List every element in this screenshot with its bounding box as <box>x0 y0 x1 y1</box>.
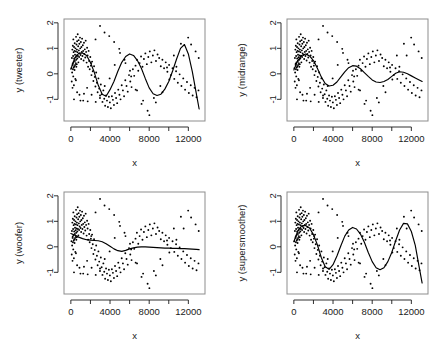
data-point <box>80 46 82 48</box>
data-point <box>318 211 320 213</box>
chart-panel-3: -1012y (supersmoother)04000800012000x <box>223 173 445 345</box>
data-point <box>129 70 131 72</box>
data-point <box>137 70 139 72</box>
data-point <box>85 213 87 215</box>
data-point <box>87 66 89 68</box>
data-point <box>78 49 80 51</box>
data-point <box>307 230 309 232</box>
data-point <box>140 229 142 231</box>
data-point <box>404 258 406 260</box>
smoother-line <box>71 45 199 110</box>
y-tick-label: 2 <box>45 193 56 198</box>
data-point <box>337 92 339 94</box>
data-point <box>356 75 358 77</box>
x-axis-title: x <box>132 157 137 168</box>
data-point <box>147 283 149 285</box>
data-point <box>305 223 307 225</box>
data-point <box>86 62 88 64</box>
data-point <box>302 94 304 96</box>
data-point <box>162 264 164 266</box>
data-point <box>99 97 101 99</box>
data-point <box>363 229 365 231</box>
data-point <box>92 243 94 245</box>
data-point <box>130 75 132 77</box>
data-point <box>298 220 300 222</box>
data-point <box>82 273 84 275</box>
data-point <box>144 52 146 54</box>
data-point <box>344 257 346 259</box>
data-point <box>369 63 371 65</box>
data-point <box>294 72 296 74</box>
data-point <box>142 100 144 102</box>
data-point <box>295 55 297 57</box>
data-point <box>307 48 309 50</box>
data-point <box>93 65 95 67</box>
data-point <box>150 234 152 236</box>
data-point <box>306 93 308 95</box>
data-point <box>99 270 101 272</box>
data-point <box>309 47 311 49</box>
data-point <box>72 38 74 40</box>
data-point <box>299 217 301 219</box>
plot-frame <box>64 19 205 121</box>
data-point <box>175 66 177 68</box>
data-point <box>336 277 338 279</box>
data-point <box>82 55 84 57</box>
data-point <box>346 268 348 270</box>
data-point <box>303 227 305 229</box>
data-point <box>294 254 296 256</box>
data-point <box>351 74 353 76</box>
data-point <box>317 86 319 88</box>
data-point <box>116 102 118 104</box>
chart-panel-1: -1012y (midrange)04000800012000x <box>223 0 445 172</box>
data-point <box>73 257 75 259</box>
x-tick-label: 8000 <box>362 133 383 144</box>
data-point <box>336 41 338 43</box>
data-point <box>413 257 415 259</box>
data-point <box>190 44 192 46</box>
data-point <box>373 234 375 236</box>
data-point <box>402 246 404 248</box>
data-point <box>352 243 354 245</box>
data-point <box>104 85 106 87</box>
data-point <box>372 223 374 225</box>
data-point <box>112 99 114 101</box>
data-point <box>82 100 84 102</box>
data-point <box>296 257 298 259</box>
data-point <box>95 274 97 276</box>
data-point <box>403 216 405 218</box>
data-point <box>371 287 373 289</box>
data-point <box>96 255 98 257</box>
data-point <box>127 91 129 93</box>
data-point <box>301 43 303 45</box>
data-point <box>367 52 369 54</box>
data-point <box>359 262 361 264</box>
data-point <box>300 45 302 47</box>
data-point <box>150 61 152 63</box>
data-point <box>322 25 324 27</box>
data-point <box>325 274 327 276</box>
data-point <box>327 205 329 207</box>
data-point <box>346 95 348 97</box>
data-point <box>314 267 316 269</box>
data-point <box>126 85 128 87</box>
data-point <box>71 49 73 51</box>
data-point <box>343 98 345 100</box>
data-point <box>342 52 344 54</box>
data-point <box>421 89 423 91</box>
data-point <box>72 55 74 57</box>
data-point <box>295 211 297 213</box>
data-point <box>419 96 421 98</box>
data-point <box>306 266 308 268</box>
data-point <box>299 264 301 266</box>
data-point <box>127 264 129 266</box>
data-point <box>406 228 408 230</box>
data-point <box>182 77 184 79</box>
data-point <box>75 66 77 68</box>
data-point <box>142 273 144 275</box>
data-point <box>110 280 112 282</box>
data-point <box>92 80 94 82</box>
data-point <box>389 244 391 246</box>
data-point <box>85 224 87 226</box>
data-point <box>418 223 420 225</box>
